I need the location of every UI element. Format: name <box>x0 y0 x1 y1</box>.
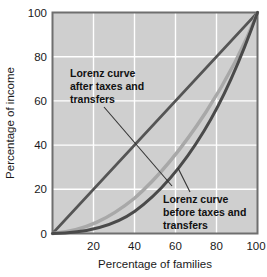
x-tick-label-60: 60 <box>169 240 182 252</box>
lorenz-curve-figure: Lorenz curve after taxes and transfers L… <box>0 0 267 277</box>
x-tick-label-40: 40 <box>128 240 141 252</box>
x-axis-title: Percentage of families <box>98 258 212 270</box>
y-tick-label-60: 60 <box>34 95 47 107</box>
annotation-before-line-3: transfers <box>163 219 208 231</box>
annotation-after-line-1: Lorenz curve <box>70 67 136 79</box>
y-tick-label-80: 80 <box>34 51 47 63</box>
y-tick-label-100: 100 <box>28 7 47 19</box>
y-tick-label-40: 40 <box>34 139 47 151</box>
annotation-before-line-2: before taxes and <box>163 206 246 218</box>
annotation-after-line-2: after taxes and <box>70 80 144 92</box>
y-axis-title: Percentage of income <box>4 67 16 179</box>
y-tick-label-20: 20 <box>34 183 47 195</box>
x-tick-label-80: 80 <box>210 240 223 252</box>
annotation-after-line-3: transfers <box>70 93 115 105</box>
x-tick-label-20: 20 <box>87 240 100 252</box>
annotation-before-line-1: Lorenz curve <box>163 193 229 205</box>
y-tick-label-0: 0 <box>41 228 47 240</box>
x-tick-label-100: 100 <box>246 240 265 252</box>
